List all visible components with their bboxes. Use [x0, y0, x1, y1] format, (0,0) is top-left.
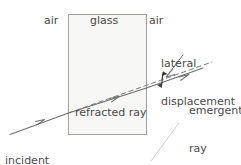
label-air-right: air — [149, 15, 163, 28]
label-emergent-ray-line1: emergent — [189, 105, 241, 118]
refraction-diagram: air glass air lateral displacement emerg… — [0, 0, 241, 165]
label-incident-ray: incident ray — [5, 130, 49, 165]
label-incident-ray-line1: incident — [5, 155, 49, 165]
label-air-left: air — [44, 15, 58, 28]
label-emergent-ray-line2: ray — [189, 143, 241, 156]
label-emergent-ray: emergent ray — [189, 80, 241, 165]
label-refracted-ray: refracted ray — [75, 107, 147, 120]
label-lateral-displacement-line1: lateral — [161, 58, 235, 71]
label-glass: glass — [90, 15, 118, 28]
